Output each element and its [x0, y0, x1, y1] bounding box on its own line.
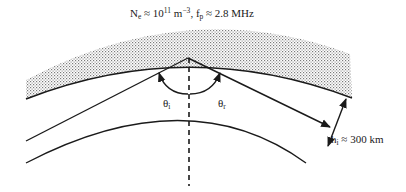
- reflected-angle-label: θr: [218, 97, 226, 111]
- reflected-angle-arc: [190, 73, 220, 94]
- incident-angle-label: θi: [163, 97, 170, 111]
- ionospheric-reflection-diagram: [0, 0, 406, 192]
- ionosphere-height-label: hi ≈ 300 km: [331, 133, 383, 147]
- plasma-parameters-label: Ne ≈ 1011 m−3, fp ≈ 2.8 MHz: [130, 6, 254, 21]
- incident-angle-arc: [159, 73, 188, 94]
- earth-surface: [26, 121, 306, 164]
